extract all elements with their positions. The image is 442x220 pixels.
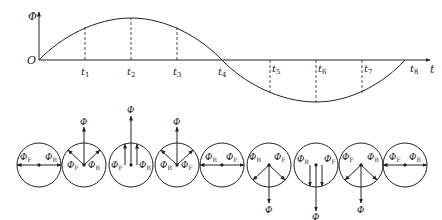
time-tick-labels: t1 t2 t3 t4 t5 t6 t7 t8 <box>81 63 419 79</box>
phasor-circle-t8 <box>383 143 427 187</box>
svg-text:ΦF: ΦF <box>274 152 286 163</box>
svg-text:ΦR: ΦR <box>205 152 217 163</box>
svg-text:ΦF: ΦF <box>324 154 336 165</box>
pulsating-field-diagram: Φ O t t1 t2 t3 t4 t5 t6 t7 t8 <box>0 0 442 220</box>
svg-text:ΦR: ΦR <box>367 152 379 163</box>
svg-text:ΦF: ΦF <box>111 160 123 171</box>
svg-text:ΦF: ΦF <box>226 152 238 163</box>
svg-text:ΦF: ΦF <box>67 160 79 171</box>
phasor-circle-t2 <box>109 116 153 187</box>
svg-text:ΦR: ΦR <box>297 154 309 165</box>
svg-text:ΦF: ΦF <box>20 152 32 163</box>
svg-text:ΦF: ΦF <box>181 160 193 171</box>
tick-t7: t7 <box>364 63 373 76</box>
tick-t4: t4 <box>218 66 227 79</box>
svg-text:Φ: Φ <box>127 105 134 115</box>
tick-t1: t1 <box>81 66 90 79</box>
tick-t6: t6 <box>318 63 327 76</box>
phasor-circle-o <box>17 143 61 187</box>
svg-text:Φ: Φ <box>80 117 87 127</box>
phasor-circle-t4 <box>200 143 244 187</box>
y-axis-label: Φ <box>28 10 37 23</box>
svg-text:ΦF: ΦF <box>342 152 354 163</box>
tick-t3: t3 <box>173 66 182 79</box>
tick-t2: t2 <box>127 66 136 79</box>
svg-text:Φ: Φ <box>173 117 180 127</box>
phasor-circle-t1 <box>62 127 106 187</box>
svg-text:Φ: Φ <box>312 212 319 220</box>
svg-text:Φ: Φ <box>357 205 364 215</box>
svg-text:ΦF: ΦF <box>389 152 401 163</box>
svg-text:ΦR: ΦR <box>139 160 151 171</box>
svg-text:ΦR: ΦR <box>160 160 172 171</box>
svg-text:ΦR: ΦR <box>409 152 421 163</box>
x-axis-label: t <box>430 63 435 76</box>
phasor-circle-t3 <box>155 127 199 187</box>
svg-text:ΦR: ΦR <box>45 152 57 163</box>
tick-t5: t5 <box>272 63 281 76</box>
origin-label: O <box>27 54 36 67</box>
waveform-graph: Φ O t t1 t2 t3 t4 t5 t6 t7 t8 <box>27 10 435 102</box>
svg-text:ΦR: ΦR <box>88 160 100 171</box>
tick-t8: t8 <box>410 63 419 76</box>
svg-text:ΦR: ΦR <box>249 152 261 163</box>
svg-text:Φ: Φ <box>265 205 272 215</box>
